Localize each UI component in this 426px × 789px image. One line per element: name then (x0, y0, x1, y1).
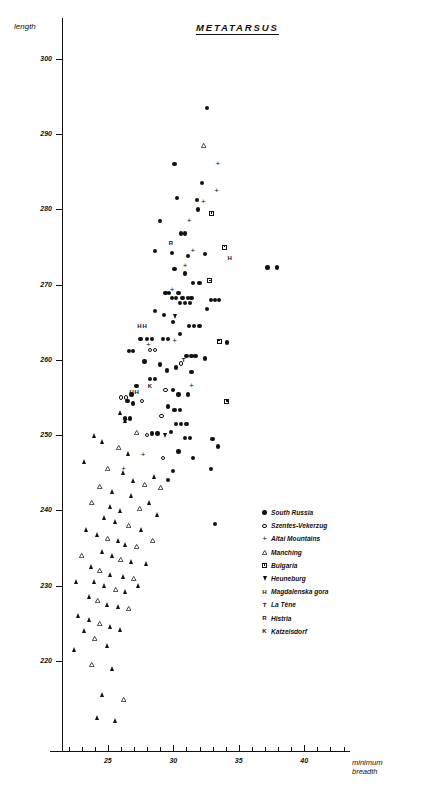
data-point (224, 399, 229, 404)
data-point (108, 624, 112, 629)
data-point (169, 430, 173, 434)
data-point (153, 377, 157, 381)
data-point (176, 392, 180, 396)
data-point (196, 207, 200, 211)
legend-item-label: South Russia (271, 509, 313, 516)
data-point (158, 362, 162, 366)
data-point (155, 431, 159, 435)
data-point (188, 436, 192, 440)
y-tick-label: 240 (22, 506, 52, 513)
legend-item: TLa Tène (258, 598, 329, 611)
data-point (217, 298, 221, 302)
data-point: H (129, 389, 133, 395)
data-point (105, 536, 110, 541)
data-point (123, 542, 127, 547)
data-point (126, 606, 131, 611)
data-point: H (143, 323, 147, 329)
data-point (190, 248, 196, 254)
legend-item: Heuneburg (258, 572, 329, 585)
data-point (189, 296, 193, 300)
data-point (92, 579, 96, 584)
data-point (72, 647, 76, 652)
data-point (158, 485, 163, 490)
data-point (108, 504, 112, 509)
figure-root: METATARSUS length minimum breadth 220230… (0, 0, 426, 789)
legend-item: South Russia (258, 506, 329, 519)
data-point (74, 579, 78, 584)
x-tick-minor (134, 747, 135, 751)
data-point (76, 613, 80, 618)
y-tick (56, 285, 62, 286)
data-point (129, 392, 133, 396)
data-point (169, 287, 175, 293)
y-tick (56, 510, 62, 511)
data-point (95, 715, 99, 720)
x-tick-minor (226, 747, 227, 751)
data-point (205, 307, 209, 311)
data-point (225, 340, 229, 344)
x-tick-label: 25 (98, 757, 118, 764)
x-tick-minor (344, 747, 345, 751)
x-tick-minor (317, 747, 318, 751)
data-point (100, 549, 104, 554)
data-point (176, 291, 180, 295)
data-point (162, 313, 166, 317)
y-tick-label: 230 (22, 582, 52, 589)
data-point (105, 643, 109, 648)
data-point (121, 697, 126, 702)
data-point (209, 298, 213, 302)
open-circle-icon (258, 524, 271, 528)
y-tick-label: 270 (22, 281, 52, 288)
data-point (175, 196, 179, 200)
data-point (174, 422, 178, 426)
y-tick-label: 250 (22, 431, 52, 438)
data-point (182, 263, 188, 269)
legend-item: HMagdalenska gora (258, 585, 329, 598)
data-point (105, 466, 110, 471)
x-tick-major (173, 745, 174, 751)
data-point (134, 384, 138, 388)
data-point (155, 512, 159, 517)
data-point (145, 342, 151, 348)
legend-item-label: Heuneburg (271, 575, 306, 582)
data-point (189, 354, 193, 358)
data-point (150, 431, 154, 435)
legend-item-label: Katzelsdorf (271, 628, 307, 635)
data-point (140, 399, 144, 403)
data-point (216, 444, 220, 448)
data-point (171, 388, 175, 392)
data-point (108, 572, 112, 577)
letter-H-icon: H (258, 589, 271, 595)
data-point (126, 451, 130, 456)
data-point (144, 561, 148, 566)
data-point (121, 574, 125, 579)
data-point (113, 587, 118, 592)
data-point (163, 388, 167, 392)
data-point (118, 627, 122, 632)
data-point (153, 309, 157, 313)
data-point (193, 354, 197, 358)
data-point (191, 456, 195, 460)
data-point (137, 506, 142, 511)
data-point (140, 452, 146, 458)
data-point (89, 564, 93, 569)
data-point (123, 416, 127, 420)
filled-circle-icon (258, 510, 271, 514)
y-axis-line (62, 18, 63, 751)
y-tick-label: 220 (22, 657, 52, 664)
x-tick-label: 35 (229, 757, 249, 764)
legend-item-label: Histria (271, 615, 292, 622)
x-axis-title-line1: minimum (352, 758, 382, 767)
data-point (186, 218, 192, 224)
data-point (95, 598, 100, 603)
legend-item-label: La Tène (271, 601, 296, 608)
x-tick-label: 40 (294, 757, 314, 764)
data-point (161, 337, 165, 341)
data-point (275, 265, 279, 269)
y-tick-label: 280 (22, 205, 52, 212)
data-point (172, 338, 178, 344)
data-point (145, 433, 149, 437)
legend-item-label: Szentes-Vekerzug (271, 522, 327, 529)
data-point (148, 377, 152, 381)
data-point (172, 267, 176, 271)
